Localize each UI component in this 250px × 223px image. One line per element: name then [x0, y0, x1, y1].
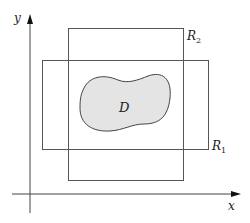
- rectangle-r2-label: R2: [186, 29, 201, 45]
- x-axis-arrow-icon: [231, 191, 241, 197]
- region-d-label: D: [118, 100, 130, 115]
- rectangle-r1-label: R1: [211, 139, 226, 155]
- x-axis-label: x: [228, 199, 235, 213]
- diagram-canvas: y x D R2 R1: [0, 0, 250, 223]
- y-axis-label: y: [13, 11, 21, 25]
- y-axis-arrow-icon: [27, 14, 33, 24]
